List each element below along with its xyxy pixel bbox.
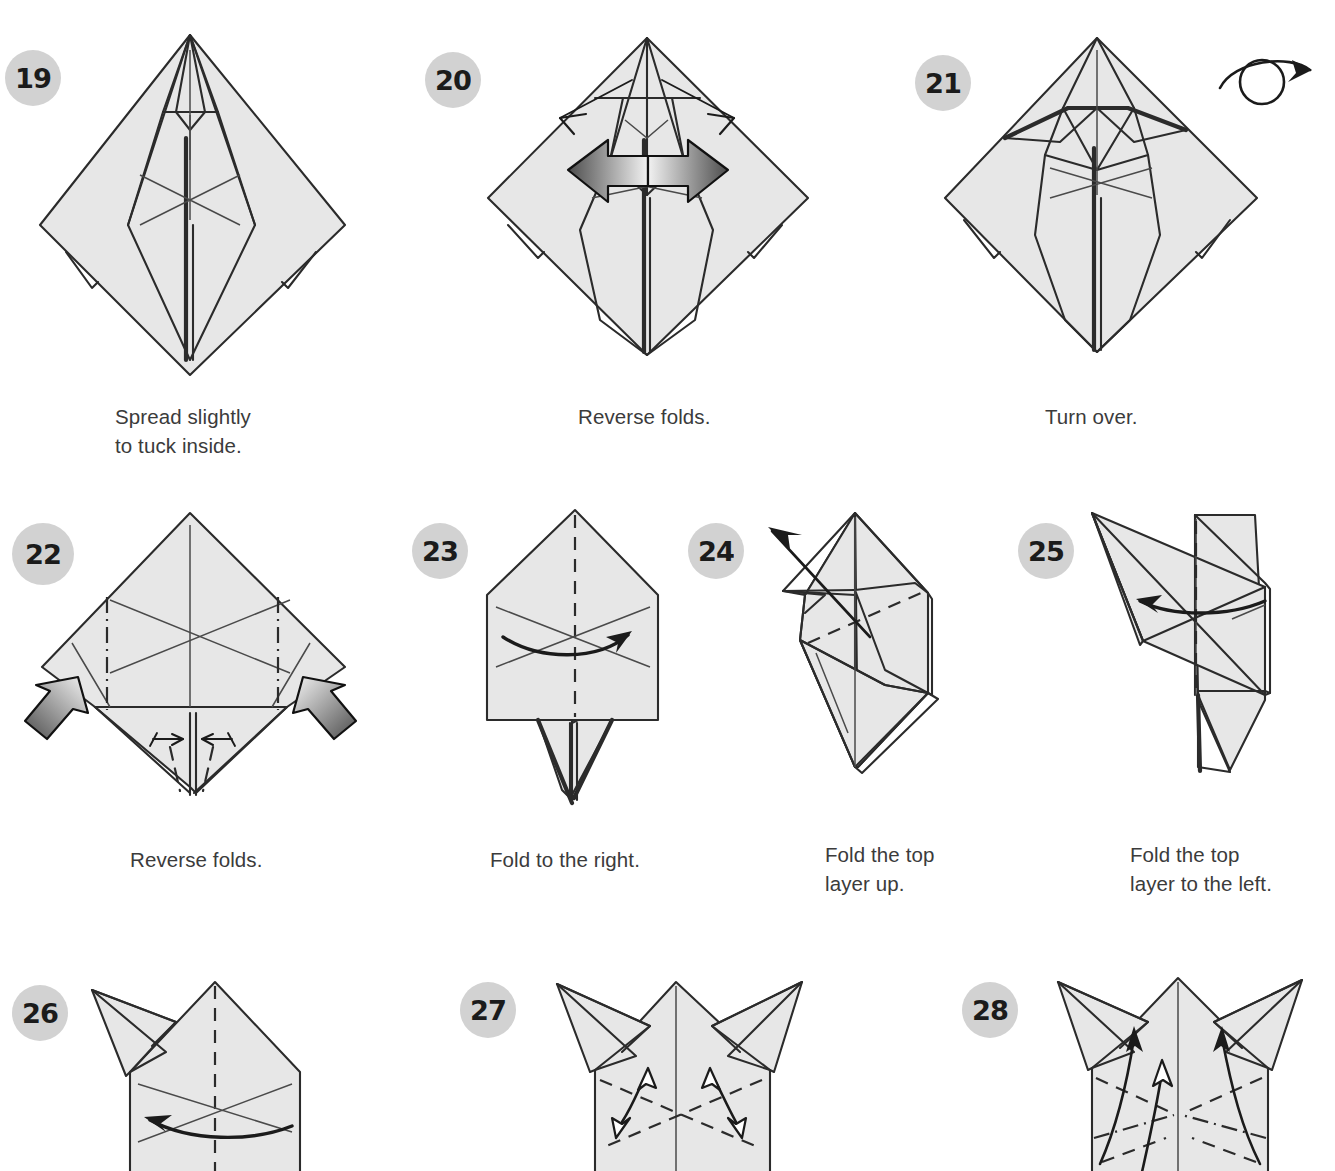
step-22-caption: Reverse folds. [130,845,262,874]
step-22: 22 [0,495,400,915]
step-badge-26: 26 [12,985,68,1041]
step-number: 23 [422,536,458,567]
push-arrow-left [25,677,88,739]
step-badge-21: 21 [915,55,971,111]
step-26-figure [0,960,440,1171]
step-number: 19 [15,63,51,94]
step-number: 27 [470,995,506,1026]
step-27: 27 [440,960,890,1171]
step-number: 22 [25,539,61,570]
step-number: 21 [925,68,961,99]
step-25: 25 [1000,495,1335,915]
step-badge-24: 24 [688,523,744,579]
step-number: 26 [22,998,58,1029]
step-28: 28 [920,960,1335,1171]
step-badge-20: 20 [425,52,481,108]
step-badge-25: 25 [1018,523,1074,579]
step-number: 24 [698,536,734,567]
folded-paper [487,510,658,803]
step-number: 20 [435,65,471,96]
folded-paper [92,982,300,1171]
step-21: 21 Turn over. [890,20,1335,470]
folded-paper [40,35,345,375]
step-badge-22: 22 [12,523,74,585]
folded-paper [1092,513,1270,772]
step-badge-23: 23 [412,523,468,579]
push-arrow-right [293,677,356,739]
folded-paper [768,513,938,773]
step-26: 26 [0,960,440,1171]
step-24-caption: Fold the top layer up. [825,840,934,898]
step-24: 24 [680,495,1010,915]
step-25-caption: Fold the top layer to the left. [1130,840,1272,898]
step-badge-19: 19 [5,50,61,106]
step-21-caption: Turn over. [1045,402,1138,431]
folded-paper [488,38,808,355]
folded-paper [557,982,802,1171]
step-number: 25 [1028,536,1064,567]
step-badge-27: 27 [460,982,516,1038]
step-19-caption: Spread slightly to tuck inside. [115,402,251,460]
step-23: 23 Fold to the right. [400,495,700,915]
turn-over-icon [1220,60,1312,104]
step-number: 28 [972,995,1008,1026]
step-23-caption: Fold to the right. [490,845,640,874]
step-badge-28: 28 [962,982,1018,1038]
folded-paper [945,38,1257,352]
step-20: 20 [410,20,830,470]
folded-paper [1058,978,1302,1171]
step-20-caption: Reverse folds. [578,402,710,431]
diagram-sheet: 19 Spread slightly to tuck inside. [0,0,1335,1171]
step-19: 19 Spread slightly to tuck inside. [0,20,400,470]
folded-paper [25,513,356,795]
